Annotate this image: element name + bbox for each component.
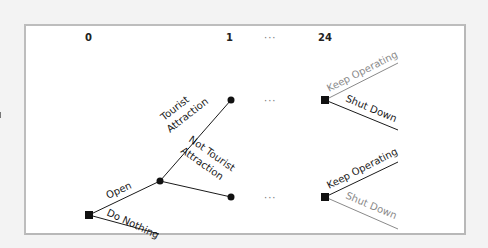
outcome-node-not-tourist	[228, 194, 235, 201]
label-lower-keep-operating: Keep Operating	[325, 146, 399, 191]
stage-label-1: 1	[226, 32, 233, 43]
label-lower-shut-down: Shut Down	[344, 190, 398, 221]
decision-node-lower	[321, 193, 329, 201]
decision-node-upper	[321, 96, 329, 104]
stage-ellipsis: ···	[264, 32, 277, 43]
ellipsis-upper: ···	[264, 95, 277, 106]
ellipsis-lower: ···	[264, 192, 277, 203]
decision-node-root	[85, 211, 93, 219]
outcome-node-tourist	[228, 97, 235, 104]
chance-node	[157, 178, 164, 185]
label-upper-keep-operating: Keep Operating	[325, 49, 399, 94]
label-do-nothing: Do Nothing	[105, 207, 161, 241]
branch-not-tourist-attraction	[160, 181, 231, 197]
decision-tree: 0 1 ··· 24 Open Do Nothing Tourist Attra…	[0, 0, 488, 248]
stage-label-24: 24	[318, 32, 332, 43]
label-open: Open	[104, 180, 133, 201]
stage-label-0: 0	[85, 32, 92, 43]
